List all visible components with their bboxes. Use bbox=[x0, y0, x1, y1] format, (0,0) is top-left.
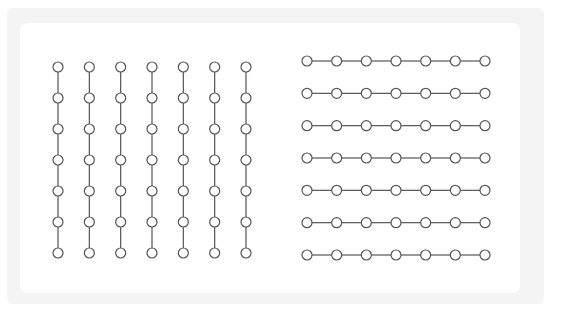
node-circle bbox=[178, 124, 188, 134]
node-circle bbox=[421, 121, 431, 131]
node-circle bbox=[84, 124, 94, 134]
node-circle bbox=[178, 248, 188, 258]
node-circle bbox=[210, 186, 220, 196]
node-circle bbox=[210, 217, 220, 227]
node-circle bbox=[302, 185, 312, 195]
node-circle bbox=[302, 153, 312, 163]
horizontal-chains-group bbox=[302, 56, 490, 260]
node-circle bbox=[391, 153, 401, 163]
node-circle bbox=[210, 155, 220, 165]
node-circle bbox=[147, 155, 157, 165]
node-circle bbox=[116, 186, 126, 196]
node-circle bbox=[361, 153, 371, 163]
node-circle bbox=[332, 185, 342, 195]
vertical-chains-group bbox=[53, 62, 251, 258]
node-circle bbox=[116, 248, 126, 258]
node-circle bbox=[241, 186, 251, 196]
node-circle bbox=[302, 218, 312, 228]
node-circle bbox=[421, 250, 431, 260]
node-circle bbox=[480, 153, 490, 163]
node-grid-diagram bbox=[0, 0, 561, 315]
node-circle bbox=[450, 153, 460, 163]
node-circle bbox=[178, 217, 188, 227]
node-circle bbox=[391, 218, 401, 228]
node-circle bbox=[241, 248, 251, 258]
node-circle bbox=[53, 248, 63, 258]
node-circle bbox=[241, 124, 251, 134]
node-circle bbox=[84, 62, 94, 72]
node-circle bbox=[147, 248, 157, 258]
node-circle bbox=[361, 56, 371, 66]
node-circle bbox=[84, 93, 94, 103]
node-circle bbox=[302, 250, 312, 260]
node-circle bbox=[178, 186, 188, 196]
node-circle bbox=[210, 248, 220, 258]
node-circle bbox=[332, 56, 342, 66]
node-circle bbox=[391, 250, 401, 260]
node-circle bbox=[116, 62, 126, 72]
node-circle bbox=[53, 124, 63, 134]
node-circle bbox=[210, 124, 220, 134]
node-circle bbox=[84, 186, 94, 196]
node-circle bbox=[361, 218, 371, 228]
node-circle bbox=[421, 185, 431, 195]
node-circle bbox=[450, 121, 460, 131]
node-circle bbox=[210, 62, 220, 72]
node-circle bbox=[332, 250, 342, 260]
node-circle bbox=[178, 62, 188, 72]
node-circle bbox=[361, 185, 371, 195]
node-circle bbox=[391, 56, 401, 66]
node-circle bbox=[332, 153, 342, 163]
node-circle bbox=[147, 217, 157, 227]
node-circle bbox=[421, 153, 431, 163]
node-circle bbox=[450, 250, 460, 260]
node-circle bbox=[480, 218, 490, 228]
node-circle bbox=[116, 93, 126, 103]
node-circle bbox=[53, 186, 63, 196]
node-circle bbox=[53, 155, 63, 165]
node-circle bbox=[480, 121, 490, 131]
node-circle bbox=[116, 155, 126, 165]
node-circle bbox=[178, 155, 188, 165]
node-circle bbox=[210, 93, 220, 103]
node-circle bbox=[147, 93, 157, 103]
node-circle bbox=[241, 62, 251, 72]
node-circle bbox=[178, 93, 188, 103]
node-circle bbox=[421, 88, 431, 98]
node-circle bbox=[332, 218, 342, 228]
node-circle bbox=[421, 218, 431, 228]
node-circle bbox=[53, 93, 63, 103]
node-circle bbox=[147, 186, 157, 196]
node-circle bbox=[302, 88, 312, 98]
node-circle bbox=[391, 185, 401, 195]
node-circle bbox=[450, 218, 460, 228]
node-circle bbox=[421, 56, 431, 66]
node-circle bbox=[332, 88, 342, 98]
node-circle bbox=[450, 56, 460, 66]
node-circle bbox=[361, 121, 371, 131]
node-circle bbox=[361, 88, 371, 98]
node-circle bbox=[361, 250, 371, 260]
node-circle bbox=[391, 88, 401, 98]
node-circle bbox=[450, 88, 460, 98]
node-circle bbox=[391, 121, 401, 131]
node-circle bbox=[53, 217, 63, 227]
node-circle bbox=[480, 88, 490, 98]
node-circle bbox=[147, 62, 157, 72]
node-circle bbox=[450, 185, 460, 195]
node-circle bbox=[302, 56, 312, 66]
node-circle bbox=[53, 62, 63, 72]
node-circle bbox=[84, 248, 94, 258]
node-circle bbox=[84, 217, 94, 227]
node-circle bbox=[116, 124, 126, 134]
node-circle bbox=[84, 155, 94, 165]
node-circle bbox=[241, 155, 251, 165]
node-circle bbox=[241, 93, 251, 103]
node-circle bbox=[480, 250, 490, 260]
node-circle bbox=[480, 185, 490, 195]
node-circle bbox=[480, 56, 490, 66]
node-circle bbox=[116, 217, 126, 227]
node-circle bbox=[241, 217, 251, 227]
node-circle bbox=[147, 124, 157, 134]
node-circle bbox=[302, 121, 312, 131]
